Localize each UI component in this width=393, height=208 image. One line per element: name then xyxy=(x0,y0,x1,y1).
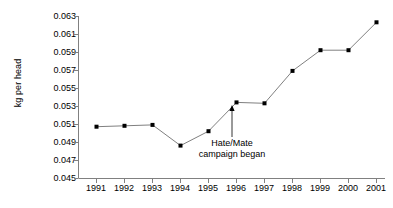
x-tick-label: 2001 xyxy=(356,183,393,193)
data-point xyxy=(95,125,99,129)
annotation-label-line1: Hate/Mate xyxy=(186,138,278,149)
data-point-markers xyxy=(95,20,379,147)
annotation-arrow xyxy=(229,105,234,137)
data-point xyxy=(319,48,323,52)
data-point xyxy=(347,48,351,52)
plot-area xyxy=(0,0,393,208)
annotation-label-line2: campaign began xyxy=(186,149,278,160)
data-point xyxy=(235,100,239,104)
data-series-line xyxy=(97,22,377,145)
data-point xyxy=(151,123,155,127)
y-tick-marks xyxy=(74,17,79,179)
data-point xyxy=(375,20,379,24)
data-point xyxy=(263,101,267,105)
data-point xyxy=(291,69,295,73)
data-point xyxy=(207,129,211,133)
data-point xyxy=(179,144,183,148)
data-point xyxy=(123,124,127,128)
chart-container: kg per head 0.063 0.061 0.059 0.057 0.05… xyxy=(0,0,393,208)
